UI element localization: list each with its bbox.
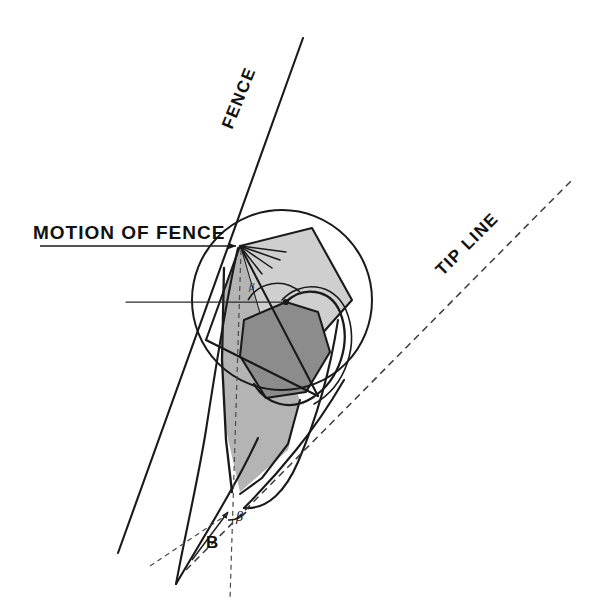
diagram-root: MOTION OF FENCE FENCE TIP LINE B β β — [0, 0, 591, 613]
pivot-dot — [283, 299, 289, 305]
point-b-label: B — [206, 533, 218, 552]
fence-geometry-diagram: MOTION OF FENCE FENCE TIP LINE B β β — [0, 0, 591, 613]
motion-of-fence-label: MOTION OF FENCE — [33, 222, 225, 243]
beta-angle-label-upper: β — [248, 280, 255, 292]
beta-angle-label-lower: β — [235, 509, 243, 524]
